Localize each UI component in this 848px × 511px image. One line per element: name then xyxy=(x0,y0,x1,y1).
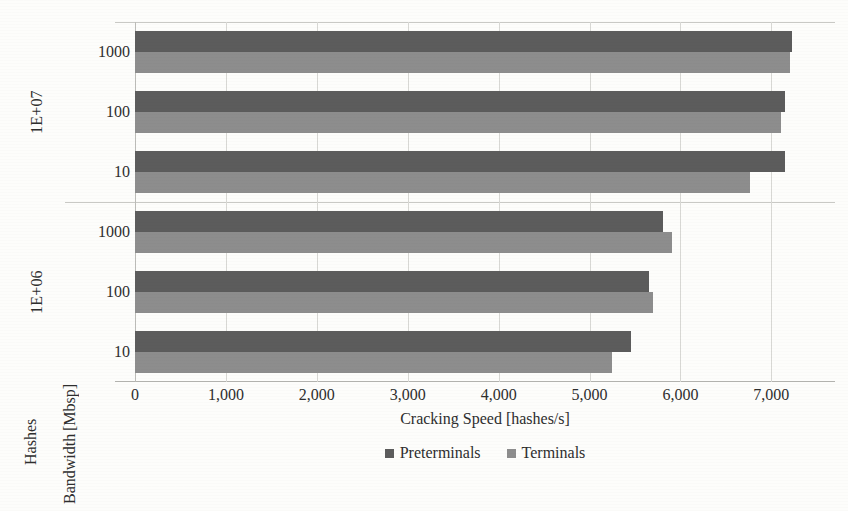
bar-terminals-5[interactable] xyxy=(135,352,612,373)
x-tick-label-4: 4,000 xyxy=(481,386,517,404)
bandwidth-tick-2: 10 xyxy=(60,164,130,180)
bar-group xyxy=(135,202,835,262)
bar-terminals-2[interactable] xyxy=(135,172,750,193)
x-tick-label-5: 5,000 xyxy=(572,386,608,404)
bar-preterminals-1[interactable] xyxy=(135,91,785,112)
hashes-axis-title: Hashes xyxy=(22,388,44,496)
bandwidth-tick-4: 100 xyxy=(60,284,130,300)
bar-preterminals-2[interactable] xyxy=(135,151,785,172)
x-tick-label-3: 3,000 xyxy=(390,386,426,404)
bandwidth-axis-title-line1: Bandwidth xyxy=(60,433,79,503)
chart-legend: Preterminals Terminals xyxy=(135,444,835,462)
bar-preterminals-3[interactable] xyxy=(135,211,663,232)
legend-item-preterminals[interactable]: Preterminals xyxy=(385,444,481,462)
bar-group xyxy=(135,262,835,322)
bar-preterminals-4[interactable] xyxy=(135,271,649,292)
bar-group xyxy=(135,22,835,82)
bar-chart: 1E+07 1E+06 1000 100 10 1000 100 10 01,0… xyxy=(0,0,848,511)
bar-group xyxy=(135,322,835,382)
legend-item-terminals[interactable]: Terminals xyxy=(507,444,586,462)
legend-label-terminals: Terminals xyxy=(522,444,586,462)
bandwidth-axis-title-line2: [Mbsp] xyxy=(60,384,79,431)
hashes-group-label-1: 1E+06 xyxy=(22,202,52,382)
bandwidth-tick-5: 10 xyxy=(60,344,130,360)
legend-label-preterminals: Preterminals xyxy=(400,444,481,462)
bar-terminals-4[interactable] xyxy=(135,292,653,313)
x-tick-label-0: 0 xyxy=(131,386,139,404)
bar-group xyxy=(135,82,835,142)
bar-preterminals-0[interactable] xyxy=(135,31,792,52)
legend-swatch-preterminals-icon xyxy=(385,449,394,458)
bandwidth-axis-title: Bandwidth [Mbsp] xyxy=(60,388,100,500)
hashes-axis: 1E+07 1E+06 xyxy=(22,22,52,382)
plot-area xyxy=(135,22,835,382)
x-tick-label-6: 6,000 xyxy=(662,386,698,404)
x-axis-title: Cracking Speed [hashes/s] xyxy=(135,410,835,428)
bar-terminals-1[interactable] xyxy=(135,112,781,133)
x-axis-ticks: 01,0002,0003,0004,0005,0006,0007,000 xyxy=(135,386,835,408)
bandwidth-tick-1: 100 xyxy=(60,104,130,120)
hashes-group-label-0: 1E+07 xyxy=(22,22,52,202)
bar-group xyxy=(135,142,835,202)
legend-swatch-terminals-icon xyxy=(507,449,516,458)
bandwidth-tick-0: 1000 xyxy=(60,44,130,60)
x-tick-label-1: 1,000 xyxy=(208,386,244,404)
x-tick-label-7: 7,000 xyxy=(753,386,789,404)
bar-terminals-3[interactable] xyxy=(135,232,672,253)
bar-preterminals-5[interactable] xyxy=(135,331,631,352)
bandwidth-tick-3: 1000 xyxy=(60,224,130,240)
bar-terminals-0[interactable] xyxy=(135,52,790,73)
x-tick-label-2: 2,000 xyxy=(299,386,335,404)
